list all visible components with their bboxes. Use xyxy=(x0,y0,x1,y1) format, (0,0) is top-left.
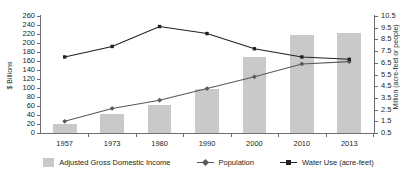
y-axis-left-tick-mark xyxy=(37,34,40,35)
y-axis-left-tick-mark xyxy=(37,115,40,116)
line-path xyxy=(65,62,350,122)
plot-area xyxy=(41,16,373,133)
x-axis-tick-label: 2000 xyxy=(234,139,274,148)
data-point-marker xyxy=(252,74,257,79)
y-axis-left-tick-label: 40 xyxy=(13,111,35,119)
data-point-marker xyxy=(158,25,161,28)
data-point-marker xyxy=(110,106,115,111)
y-axis-left-tick-mark xyxy=(37,52,40,53)
x-axis-tick-mark xyxy=(88,133,89,137)
y-axis-left-tick-label: 80 xyxy=(13,93,35,101)
legend-item[interactable]: Population xyxy=(197,158,254,167)
y-axis-right-tick-label: 5.5 xyxy=(381,71,403,79)
y-axis-right-tick-mark xyxy=(375,39,378,40)
data-point-marker xyxy=(205,86,210,91)
y-axis-left-tick-label: 60 xyxy=(13,102,35,110)
y-axis-left-tick-mark xyxy=(37,79,40,80)
y-axis-right-tick-label: 1.5 xyxy=(381,117,403,125)
chart-legend: Adjusted Gross Domestic IncomePopulation… xyxy=(0,158,417,167)
y-axis-right-tick-mark xyxy=(375,98,378,99)
data-point-marker xyxy=(253,47,256,50)
data-point-marker xyxy=(63,55,66,58)
y-axis-right-tick-label: 9.5 xyxy=(381,24,403,32)
legend-label: Water Use (acre-feet) xyxy=(302,158,374,167)
y-axis-left-tick-label: 220 xyxy=(13,30,35,38)
y-axis-left-tick-label: 20 xyxy=(13,120,35,128)
y-axis-left-tick-label: 260 xyxy=(13,12,35,20)
y-axis-left-tick-mark xyxy=(37,70,40,71)
y-axis-left-tick-label: 200 xyxy=(13,39,35,47)
y-axis-right-tick-label: 7.5 xyxy=(381,47,403,55)
y-axis-left-tick-label: 100 xyxy=(13,84,35,92)
legend-item[interactable]: Water Use (acre-feet) xyxy=(280,158,374,167)
y-axis-left-title: $ Billions xyxy=(6,46,13,106)
y-axis-left-tick-mark xyxy=(37,88,40,89)
legend-item[interactable]: Adjusted Gross Domestic Income xyxy=(43,158,170,167)
x-axis-tick-label: 1957 xyxy=(45,139,85,148)
y-axis-right-tick-label: 0.5 xyxy=(381,129,403,137)
line-series-group xyxy=(41,16,373,133)
y-axis-left-tick-mark xyxy=(37,16,40,17)
y-axis-right-tick-mark xyxy=(375,133,378,134)
y-axis-right-tick-mark xyxy=(375,63,378,64)
legend-line-square-icon xyxy=(280,158,297,167)
legend-label: Population xyxy=(219,158,254,167)
data-point-marker xyxy=(110,45,113,48)
data-point-marker xyxy=(299,62,304,67)
data-point-marker xyxy=(348,58,351,61)
y-axis-left-tick-label: 0 xyxy=(13,129,35,137)
y-axis-left-tick-label: 180 xyxy=(13,48,35,56)
x-axis-tick-mark xyxy=(373,133,374,137)
y-axis-right-tick-label: 6.5 xyxy=(381,59,403,67)
y-axis-right-tick-label: 3.5 xyxy=(381,94,403,102)
y-axis-right-tick-label: 10.5 xyxy=(381,12,403,20)
y-axis-right-tick-label: 4.5 xyxy=(381,82,403,90)
y-axis-right-tick-label: 2.5 xyxy=(381,106,403,114)
data-point-marker xyxy=(300,55,303,58)
y-axis-left-tick-label: 140 xyxy=(13,66,35,74)
y-axis-left-tick-label: 120 xyxy=(13,75,35,83)
legend-line-diamond-icon xyxy=(197,158,214,167)
line-path xyxy=(65,27,350,60)
y-axis-left-tick-mark xyxy=(37,133,40,134)
y-axis-left-tick-mark xyxy=(37,97,40,98)
data-point-marker xyxy=(62,119,67,124)
y-axis-right-tick-mark xyxy=(375,28,378,29)
x-axis-tick-mark xyxy=(183,133,184,137)
y-axis-right-tick-mark xyxy=(375,110,378,111)
x-axis-tick-label: 2010 xyxy=(282,139,322,148)
x-axis-tick-label: 2013 xyxy=(329,139,369,148)
y-axis-left-tick-mark xyxy=(37,106,40,107)
data-point-marker xyxy=(157,98,162,103)
y-axis-left-tick-mark xyxy=(37,25,40,26)
y-axis-left-tick-mark xyxy=(37,61,40,62)
legend-label: Adjusted Gross Domestic Income xyxy=(59,158,170,167)
y-axis-right-tick-mark xyxy=(375,121,378,122)
y-axis-right-tick-mark xyxy=(375,16,378,17)
x-axis-tick-label: 1980 xyxy=(140,139,180,148)
y-axis-right-tick-label: 8.5 xyxy=(381,35,403,43)
x-axis-tick-label: 1973 xyxy=(92,139,132,148)
y-axis-right-tick-mark xyxy=(375,86,378,87)
chart-container: $ Billions Million (acre-feet or people)… xyxy=(0,0,417,179)
y-axis-left-tick-label: 160 xyxy=(13,57,35,65)
x-axis-tick-mark xyxy=(231,133,232,137)
y-axis-right-tick-mark xyxy=(375,75,378,76)
y-axis-left-tick-mark xyxy=(37,43,40,44)
x-axis-tick-label: 1990 xyxy=(187,139,227,148)
y-axis-right-tick-mark xyxy=(375,51,378,52)
x-axis-tick-mark xyxy=(326,133,327,137)
y-axis-left-tick-mark xyxy=(37,124,40,125)
data-point-marker xyxy=(205,32,208,35)
x-axis-tick-mark xyxy=(136,133,137,137)
x-axis-tick-mark xyxy=(278,133,279,137)
y-axis-left-tick-label: 240 xyxy=(13,21,35,29)
legend-swatch-icon xyxy=(43,158,54,167)
